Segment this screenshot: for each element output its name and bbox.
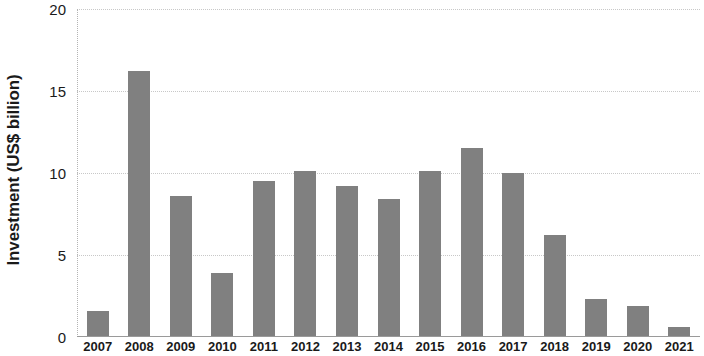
- bar-chart: Investment (US$ billion) 20 15 10 5 0 20…: [0, 0, 704, 356]
- bar-2011: [253, 181, 275, 337]
- y-axis-line: [77, 9, 78, 337]
- bar-2015: [419, 171, 441, 337]
- x-axis-tick-labels: 2007200820092010201120122013201420152016…: [77, 339, 700, 356]
- y-tick-label-10: 10: [49, 165, 66, 182]
- y-tick-label-5: 5: [58, 247, 66, 264]
- x-tick-label-2018: 2018: [540, 339, 569, 354]
- bar-2014: [378, 199, 400, 337]
- bar-2016: [461, 148, 483, 337]
- bar-2013: [336, 186, 358, 337]
- x-tick-label-2016: 2016: [457, 339, 486, 354]
- bar-2019: [585, 299, 607, 337]
- bar-2017: [502, 173, 524, 337]
- x-tick-label-2013: 2013: [332, 339, 361, 354]
- x-tick-label-2011: 2011: [250, 339, 278, 354]
- bar-2018: [544, 235, 566, 337]
- x-tick-label-2020: 2020: [623, 339, 652, 354]
- x-tick-label-2021: 2021: [665, 339, 694, 354]
- x-tick-label-2012: 2012: [291, 339, 320, 354]
- gridline-10: [77, 173, 700, 174]
- gridline-15: [77, 91, 700, 92]
- plot-area: [77, 9, 700, 337]
- bar-2008: [128, 71, 150, 337]
- x-tick-label-2019: 2019: [582, 339, 611, 354]
- x-tick-label-2007: 2007: [83, 339, 112, 354]
- y-tick-label-0: 0: [58, 329, 66, 346]
- x-tick-label-2015: 2015: [416, 339, 445, 354]
- gridline-20: [77, 9, 700, 10]
- x-tick-label-2009: 2009: [166, 339, 195, 354]
- y-tick-label-15: 15: [49, 83, 66, 100]
- y-tick-label-20: 20: [49, 1, 66, 18]
- y-axis-title-text: Investment (US$ billion): [4, 74, 24, 265]
- bar-2009: [170, 196, 192, 337]
- bar-2020: [627, 306, 649, 337]
- x-tick-label-2017: 2017: [499, 339, 528, 354]
- x-tick-label-2014: 2014: [374, 339, 403, 354]
- bar-2007: [87, 311, 109, 337]
- bar-2012: [294, 171, 316, 337]
- y-axis-title: Investment (US$ billion): [0, 0, 28, 340]
- x-tick-label-2008: 2008: [125, 339, 154, 354]
- x-tick-label-2010: 2010: [208, 339, 237, 354]
- y-axis-tick-labels: 20 15 10 5 0: [28, 0, 72, 356]
- bar-2010: [211, 273, 233, 337]
- x-axis-line: [77, 336, 700, 337]
